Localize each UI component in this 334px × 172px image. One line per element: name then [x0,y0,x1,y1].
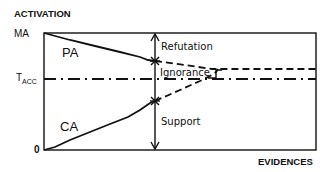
y-axis-label: ACTIVATION [14,8,71,19]
ca-label: CA [60,119,78,134]
pa-curve-solid [44,33,155,61]
y-tick-ma: MA [14,28,29,39]
pa-label: PA [62,45,79,60]
region-support: Support [161,116,201,127]
activation-diagram: ACTIVATION EVIDENCES MA T ACC 0 PA CA Re… [0,0,334,172]
y-tick-tacc: T ACC [16,72,37,85]
region-ignorance: Ignorance [160,67,210,78]
measurement-arrow [151,34,159,149]
region-refutation: Refutation [161,41,213,52]
y-tick-zero: 0 [34,144,40,155]
y-tick-tacc-sub: ACC [22,78,37,85]
x-axis-label: EVIDENCES [258,156,313,167]
